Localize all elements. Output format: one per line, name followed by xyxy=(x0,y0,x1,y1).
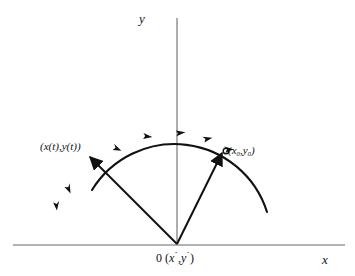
vector-to-x-t xyxy=(90,157,177,244)
point-label-x-zero: (x0,y0) xyxy=(228,145,255,158)
arc-direction-arrowheads xyxy=(64,130,234,194)
x-axis-label: x xyxy=(322,253,328,266)
y-axis-label: y xyxy=(139,12,145,25)
origin-label-paren-close: ) xyxy=(190,251,194,265)
point-label-x-zero-open: (x xyxy=(228,144,237,156)
vector-to-x-zero xyxy=(177,153,222,244)
origin-label: 0 (x˙,y˙) xyxy=(156,250,194,264)
diagram-svg xyxy=(0,0,355,276)
point-label-x-t: (x(t),y(t)) xyxy=(40,141,81,152)
point-label-x-zero-close: ) xyxy=(251,144,255,156)
figure-canvas: y x (x(t),y(t)) (x0,y0) 0 (x˙,y˙) xyxy=(0,0,355,276)
origin-label-zero: 0 xyxy=(156,251,162,265)
arc-tail-arrowhead xyxy=(53,200,63,211)
point-label-x-zero-mid: ,y xyxy=(240,144,248,156)
